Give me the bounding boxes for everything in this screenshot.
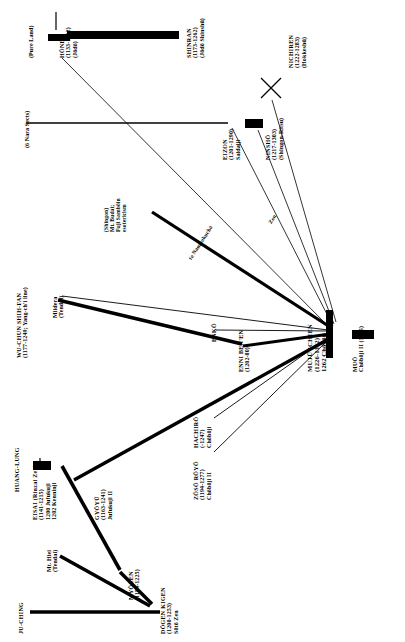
label-nara-sects: (6 Nara Sects) [24, 111, 30, 148]
label-huang-lung: HUANG-LUNG [14, 447, 20, 492]
node-bar-honen-shinran [67, 31, 179, 39]
label-enni-benen: ENNI BEN'EN (1202-80) [238, 330, 251, 372]
label-hachiro: HACHIRŌ (-1247) Chōbōji [193, 417, 212, 448]
label-muo: MUŌ Chōbōji II (1305) [352, 326, 365, 372]
edge-shingon-muju [152, 212, 330, 327]
label-dogen: DŌGEN KIGEN (1200-1253) Sōtō Zen [160, 587, 179, 634]
label-pure-land: (Pure Land) [28, 26, 34, 59]
label-ninsho: NINSHŌ (1217-1303) (Shingon-Ritsu) [265, 118, 284, 160]
label-shingon-esotericism: (Shingon) Mt. Budai; Fuji Sambōin esoter… [104, 198, 128, 232]
label-wu-chun: WU-CHUN SHIH-FAN (1177-1249; Yang-ch'i l… [16, 287, 29, 358]
label-miidera: Miidera (Tendai) [52, 296, 65, 318]
label-zoso-royo: ZŌSŌ RŌYŌ (1194-1277) Chōbōji II [193, 461, 212, 500]
node-bar-muju [326, 310, 333, 358]
lineage-diagram: (Pure Land) HŌNEN (1133-1212) (Jōdō) SHI… [0, 0, 405, 642]
label-eisai: EISAI (Rinzai Zen) (1141-1215) 1200 Jufu… [32, 465, 57, 520]
label-eizon: EIZON (1201-1290) Saidaiji [222, 129, 241, 160]
connection-lines [0, 0, 405, 642]
edge-gyoyu-muju [74, 340, 327, 480]
label-gyoyu: GYŌYŪ (1163-1241) Jufukuji II [94, 489, 113, 520]
nichiren-cross-icon [259, 74, 285, 100]
label-myozen: MYŌZEN (1184-1225) [128, 569, 141, 600]
label-nichiren: NICHIREN (1222-1283) (Hokkeshū) [288, 35, 307, 68]
label-enko: ENKŌ [211, 323, 217, 342]
label-ju-ching: JU-CHING [18, 602, 24, 634]
label-shinran: SHINRAN (1173-1262) (Jōdō Shinshū) [186, 18, 205, 58]
label-mt-hiei: Mt. Hiei (Tendai) [46, 550, 59, 572]
label-muju-ichien: MUJŪ ICHIEN (1226-1312) 1262 Chōbōji [306, 324, 327, 372]
node-bar-ninsho [245, 119, 263, 128]
label-honen: HŌNEN (1133-1212) (Jōdō) [59, 27, 78, 58]
edge-honen-muju [62, 58, 332, 330]
